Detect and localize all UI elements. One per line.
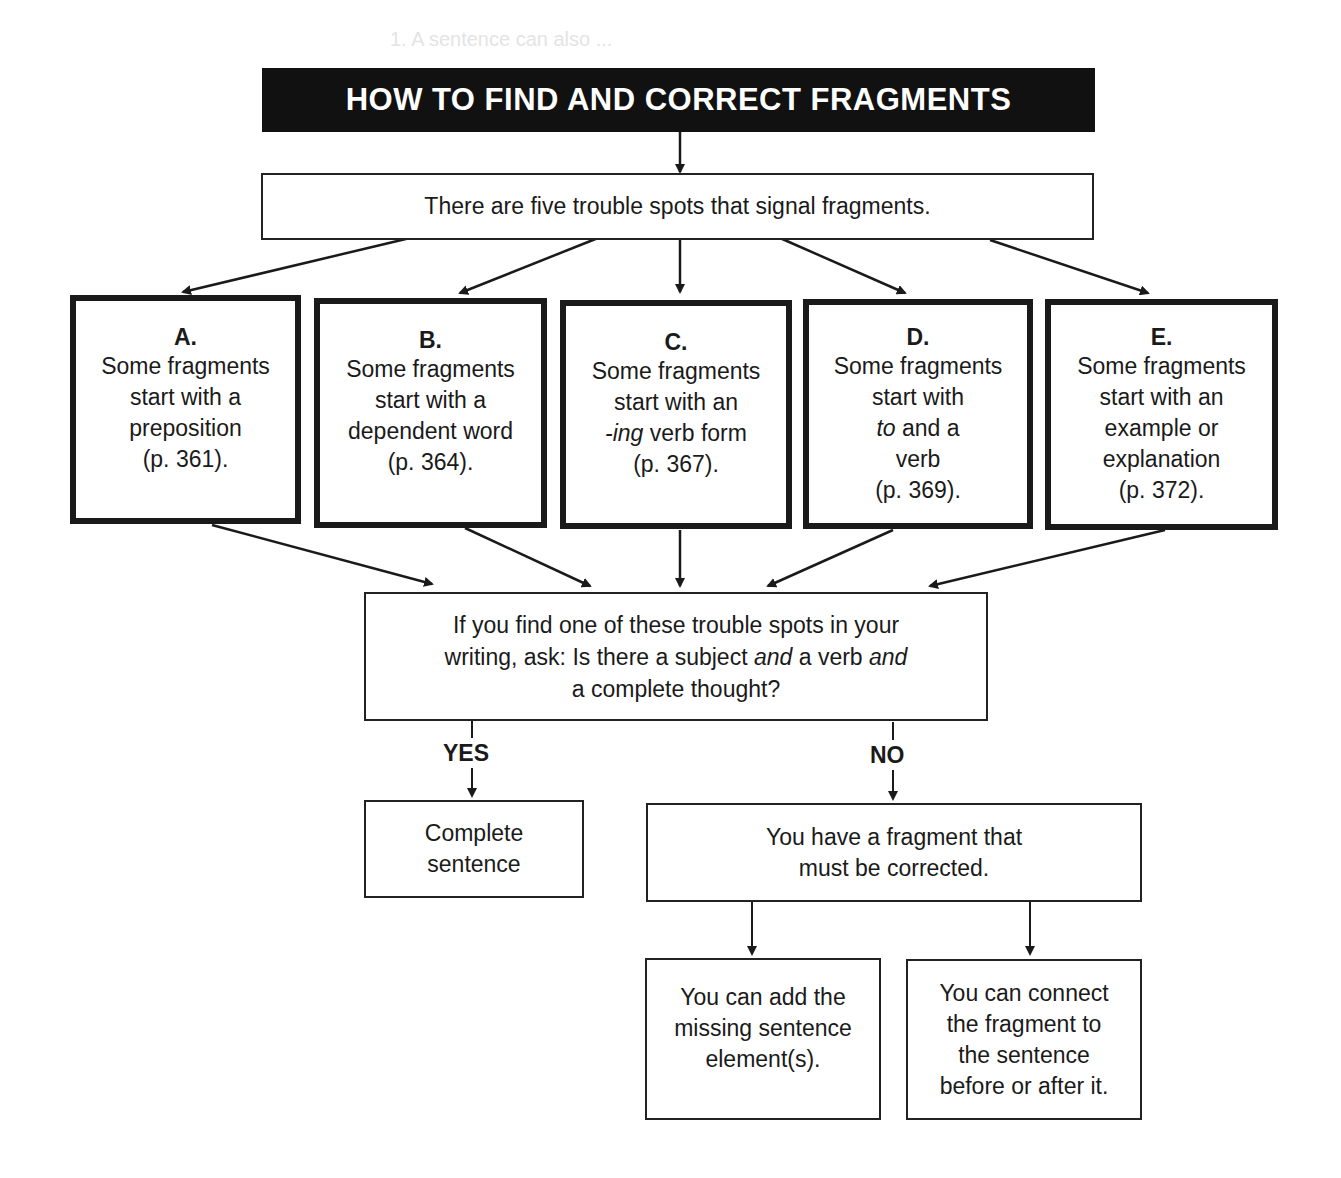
question-fragment: a verb — [792, 644, 869, 670]
ing-italic: -ing — [605, 420, 643, 446]
fix-add-box: You can add the missing sentence element… — [645, 958, 881, 1120]
spot-text: start with — [872, 382, 964, 413]
complete-sentence-box: Complete sentence — [364, 800, 584, 898]
and-italic: and — [754, 644, 792, 670]
spot-text: start with an — [614, 387, 738, 418]
intro-box: There are five trouble spots that signal… — [261, 173, 1094, 240]
spot-text: Some fragments — [346, 354, 515, 385]
to-italic: to — [876, 415, 895, 441]
letter-c: C. — [665, 328, 688, 356]
fix-connect-box: You can connect the fragment to the sent… — [906, 959, 1142, 1120]
diagram-title: HOW TO FIND AND CORRECT FRAGMENTS — [262, 68, 1095, 132]
letter-a: A. — [174, 323, 197, 351]
complete-text: sentence — [427, 849, 520, 880]
trouble-spot-d: D. Some fragments start with to and a ve… — [803, 299, 1033, 529]
no-label: NO — [870, 742, 905, 769]
trouble-spot-b: B. Some fragments start with a dependent… — [314, 298, 547, 528]
spot-page-ref: (p. 369). — [875, 475, 961, 506]
question-text: If you find one of these trouble spots i… — [453, 609, 899, 641]
spot-text: Some fragments — [592, 356, 761, 387]
question-box: If you find one of these trouble spots i… — [364, 592, 988, 721]
fix-text: element(s). — [705, 1044, 820, 1075]
fragment-text: You have a fragment that — [766, 822, 1022, 853]
fix-text: the fragment to — [947, 1009, 1102, 1040]
fragment-box: You have a fragment that must be correct… — [646, 803, 1142, 902]
letter-b: B. — [419, 326, 442, 354]
question-text: writing, ask: Is there a subject and a v… — [445, 641, 908, 673]
spot-text: example or — [1105, 413, 1219, 444]
spot-text: Some fragments — [834, 351, 1003, 382]
spot-text: start with a — [130, 382, 241, 413]
yes-label: YES — [443, 740, 489, 767]
fix-text: before or after it. — [940, 1071, 1109, 1102]
question-fragment: writing, ask: Is there a subject — [445, 644, 754, 670]
spot-text: and a — [896, 415, 960, 441]
and-italic: and — [869, 644, 907, 670]
spot-page-ref: (p. 364). — [388, 447, 474, 478]
complete-text: Complete — [425, 818, 523, 849]
fix-text: You can connect — [939, 978, 1108, 1009]
intro-text: There are five trouble spots that signal… — [424, 191, 930, 222]
spot-text: -ing verb form — [605, 418, 747, 449]
spot-page-ref: (p. 361). — [143, 444, 229, 475]
question-text: a complete thought? — [572, 673, 780, 705]
spot-page-ref: (p. 367). — [633, 449, 719, 480]
trouble-spot-c: C. Some fragments start with an -ing ver… — [560, 300, 792, 529]
letter-e: E. — [1151, 323, 1173, 351]
fix-text: the sentence — [958, 1040, 1090, 1071]
spot-text: preposition — [129, 413, 242, 444]
spot-text: verb form — [643, 420, 747, 446]
spot-page-ref: (p. 372). — [1119, 475, 1205, 506]
fix-text: missing sentence — [674, 1013, 852, 1044]
spot-text: start with a — [375, 385, 486, 416]
spot-text: verb — [896, 444, 941, 475]
letter-d: D. — [907, 323, 930, 351]
spot-text: to and a — [876, 413, 959, 444]
trouble-spot-e: E. Some fragments start with an example … — [1045, 299, 1278, 530]
fix-text: You can add the — [680, 982, 845, 1013]
fragment-text: must be corrected. — [799, 853, 989, 884]
spot-text: explanation — [1103, 444, 1221, 475]
spot-text: Some fragments — [101, 351, 270, 382]
spot-text: dependent word — [348, 416, 513, 447]
spot-text: start with an — [1100, 382, 1224, 413]
spot-text: Some fragments — [1077, 351, 1246, 382]
trouble-spot-a: A. Some fragments start with a prepositi… — [70, 295, 301, 524]
